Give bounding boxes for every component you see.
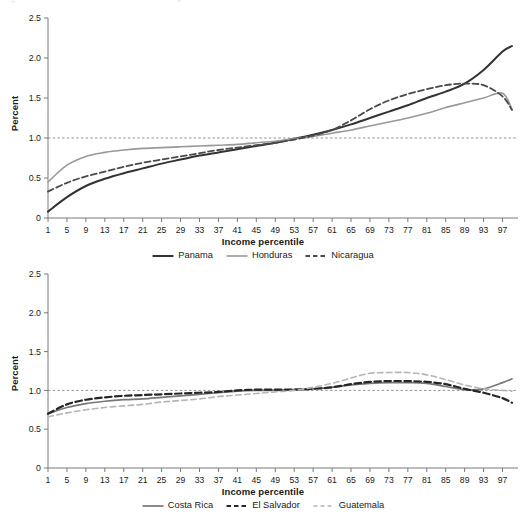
y-axis-title-bottom: Percent: [9, 344, 20, 404]
legend-label: Nicaragua: [331, 251, 373, 260]
x-tick-label: 57: [308, 475, 318, 485]
legend-item-guatemala[interactable]: Guatemala: [313, 501, 384, 510]
x-tick-label: 45: [252, 475, 262, 485]
chart-panel-bottom: Percent 00.51.01.52.02.51591317212529333…: [0, 260, 526, 521]
legend-top: PanamaHondurasNicaragua: [0, 251, 526, 260]
x-tick-label: 45: [252, 225, 262, 235]
x-tick-label: 89: [460, 225, 470, 235]
x-tick-label: 65: [346, 225, 356, 235]
x-tick-label: 77: [403, 225, 413, 235]
x-tick-label: 53: [289, 475, 299, 485]
legend-item-panama[interactable]: Panama: [152, 251, 213, 260]
legend-label: Costa Rica: [168, 501, 213, 510]
x-tick-label: 49: [270, 225, 280, 235]
legend-line-swatch: [152, 252, 174, 260]
x-tick-label: 37: [214, 475, 224, 485]
x-tick-label: 81: [422, 225, 432, 235]
y-tick-label: 1.0: [29, 386, 41, 396]
series-line-guatemala: [48, 372, 512, 416]
y-tick-label: 2.5: [29, 269, 41, 279]
y-tick-label: 0: [36, 213, 41, 223]
x-tick-label: 17: [119, 475, 129, 485]
x-axis-title-bottom: Income percentile: [0, 486, 526, 497]
legend-line-swatch: [226, 502, 248, 510]
x-tick-label: 49: [270, 475, 280, 485]
x-tick-label: 97: [498, 475, 508, 485]
x-axis-title-top: Income percentile: [0, 236, 526, 247]
x-tick-label: 9: [83, 475, 88, 485]
plot-area-top: 00.51.01.52.02.5159131721252933374145495…: [0, 0, 526, 240]
y-tick-label: 1.5: [29, 347, 41, 357]
x-tick-label: 93: [479, 475, 489, 485]
legend-item-honduras[interactable]: Honduras: [226, 251, 292, 260]
legend-line-swatch: [313, 502, 335, 510]
y-tick-label: 0.5: [29, 173, 41, 183]
x-tick-label: 53: [289, 225, 299, 235]
legend-bottom: Costa RicaEl SalvadorGuatemala: [0, 501, 526, 510]
x-tick-label: 1: [46, 475, 51, 485]
chart-panel-top: Percent 00.51.01.52.02.51591317212529333…: [0, 0, 526, 268]
x-tick-label: 85: [441, 225, 451, 235]
legend-label: Honduras: [252, 251, 292, 260]
x-tick-label: 73: [384, 475, 394, 485]
x-tick-label: 61: [327, 225, 337, 235]
x-tick-label: 25: [157, 225, 167, 235]
legend-line-swatch: [305, 252, 327, 260]
legend-line-swatch: [226, 252, 248, 260]
x-tick-label: 77: [403, 475, 413, 485]
x-tick-label: 61: [327, 475, 337, 485]
x-tick-label: 1: [46, 225, 51, 235]
y-tick-label: 0.5: [29, 424, 41, 434]
y-tick-label: 0: [36, 463, 41, 473]
legend-item-el-salvador[interactable]: El Salvador: [226, 501, 300, 510]
x-tick-label: 41: [233, 225, 243, 235]
x-tick-label: 21: [138, 475, 148, 485]
legend-line-swatch: [142, 502, 164, 510]
x-tick-label: 25: [157, 475, 167, 485]
x-tick-label: 89: [460, 475, 470, 485]
legend-label: El Salvador: [252, 501, 300, 510]
x-tick-label: 9: [83, 225, 88, 235]
legend-item-nicaragua[interactable]: Nicaragua: [305, 251, 373, 260]
legend-item-costa-rica[interactable]: Costa Rica: [142, 501, 213, 510]
x-tick-label: 97: [498, 225, 508, 235]
x-tick-label: 17: [119, 225, 129, 235]
x-tick-label: 13: [100, 225, 110, 235]
x-tick-label: 65: [346, 475, 356, 485]
x-tick-label: 5: [65, 225, 70, 235]
x-tick-label: 29: [176, 225, 186, 235]
x-tick-label: 29: [176, 475, 186, 485]
x-tick-label: 41: [233, 475, 243, 485]
x-tick-label: 69: [365, 475, 375, 485]
x-tick-label: 73: [384, 225, 394, 235]
x-tick-label: 81: [422, 475, 432, 485]
x-tick-label: 93: [479, 225, 489, 235]
legend-label: Guatemala: [339, 501, 384, 510]
x-tick-label: 5: [65, 475, 70, 485]
x-tick-label: 33: [195, 225, 205, 235]
y-tick-label: 2.0: [29, 53, 41, 63]
y-tick-label: 1.0: [29, 133, 41, 143]
x-tick-label: 69: [365, 225, 375, 235]
legend-label: Panama: [178, 251, 213, 260]
x-tick-label: 21: [138, 225, 148, 235]
figure-container: ▪ ▪ Percent 00.51.01.52.02.5159131721252…: [0, 0, 526, 521]
series-line-panama: [48, 46, 512, 212]
x-tick-label: 37: [214, 225, 224, 235]
y-tick-label: 1.5: [29, 93, 41, 103]
plot-area-bottom: 00.51.01.52.02.5159131721252933374145495…: [0, 260, 526, 490]
x-tick-label: 13: [100, 475, 110, 485]
y-axis-title-top: Percent: [9, 84, 20, 144]
x-tick-label: 57: [308, 225, 318, 235]
x-tick-label: 33: [195, 475, 205, 485]
y-tick-label: 2.0: [29, 308, 41, 318]
x-tick-label: 85: [441, 475, 451, 485]
y-tick-label: 2.5: [29, 13, 41, 23]
